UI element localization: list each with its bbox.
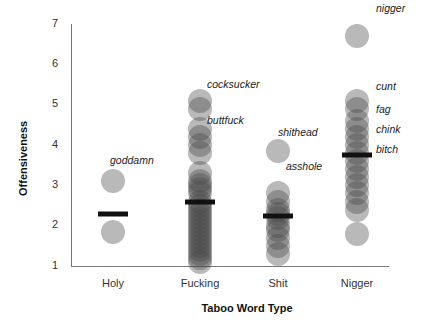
- y-tick-6: 6: [38, 57, 58, 69]
- y-tick-1: 1: [38, 259, 58, 271]
- annotation-buttfuck: buttfuck: [207, 114, 244, 126]
- data-point: [101, 169, 125, 193]
- data-point: [345, 198, 369, 222]
- annotation-cunt: cunt: [376, 80, 396, 92]
- mean-bar: [98, 211, 128, 216]
- x-tick-holy: Holy: [102, 277, 124, 289]
- annotation-chink: chink: [376, 123, 401, 135]
- y-axis-title: Offensiveness: [17, 121, 29, 196]
- data-point: [101, 220, 125, 244]
- data-point: [188, 250, 212, 274]
- annotation-bitch: bitch: [376, 143, 398, 155]
- y-tick-2: 2: [38, 218, 58, 230]
- annotation-cocksucker: cocksucker: [207, 78, 260, 90]
- data-point: [266, 242, 290, 266]
- offensiveness-scatter-chart: Offensiveness 7 6 5 4 3 2 1 Holy Fucking…: [0, 0, 428, 330]
- x-axis-line: [71, 266, 389, 267]
- y-tick-3: 3: [38, 178, 58, 190]
- x-axis-title: Taboo Word Type: [201, 302, 292, 314]
- y-tick-4: 4: [38, 138, 58, 150]
- mean-bar: [185, 199, 215, 204]
- y-tick-5: 5: [38, 97, 58, 109]
- x-tick-shit: Shit: [269, 277, 288, 289]
- annotation-goddamn: goddamn: [110, 154, 154, 166]
- mean-bar: [342, 153, 372, 158]
- annotation-fag: fag: [376, 103, 391, 115]
- x-tick-fucking: Fucking: [181, 277, 220, 289]
- annotation-nigger: nigger: [376, 2, 405, 14]
- data-point: [345, 24, 369, 48]
- annotation-shithead: shithead: [278, 126, 318, 138]
- data-point: [345, 222, 369, 246]
- mean-bar: [263, 213, 293, 218]
- x-tick-nigger: Nigger: [341, 277, 373, 289]
- annotation-asshole: asshole: [286, 160, 322, 172]
- y-axis-line: [71, 24, 72, 266]
- y-tick-7: 7: [38, 17, 58, 29]
